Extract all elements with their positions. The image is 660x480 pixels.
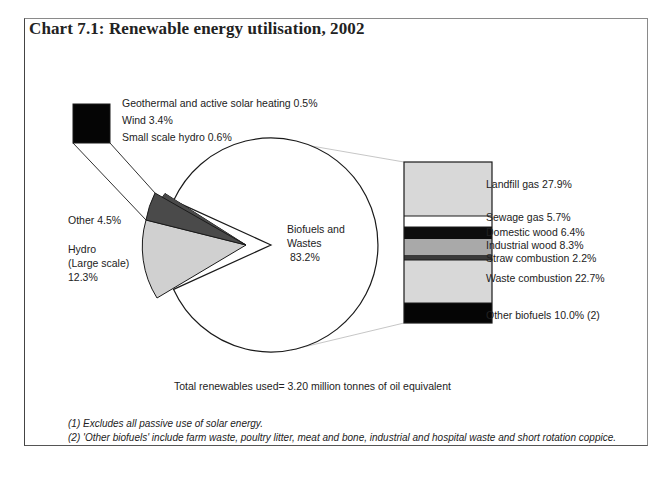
bar-label-domestic-wood: Domestic wood 6.4% [486,226,585,239]
label-biofuels-2: Wastes [287,237,322,250]
bar-seg-domestic-wood [404,227,492,239]
label-biofuels-3: 83.2% [290,251,320,264]
bar-label-straw: Straw combustion 2.2% [486,252,596,265]
connector-other-right [110,143,155,193]
label-biofuels-1: Biofuels and [287,223,345,236]
bar-label-waste-combustion: Waste combustion 22.7% [486,272,605,285]
label-hydro-1: Hydro [68,243,96,256]
label-hydro-2: (Large scale) [68,257,129,270]
label-wind: Wind 3.4% [122,114,173,127]
bar-seg-sewage [404,216,492,227]
biofuels-stacked-bar [404,162,492,323]
footnote-1: (1) Excludes all passive use of solar en… [68,418,263,429]
bar-label-industrial-wood: Industrial wood 8.3% [486,239,583,252]
label-hydro-3: 12.3% [68,271,98,284]
total-renewables: Total renewables used= 3.20 million tonn… [174,380,451,392]
bar-label-sewage: Sewage gas 5.7% [486,211,571,224]
bar-seg-industrial-wood [404,239,492,255]
label-small-hydro: Small scale hydro 0.6% [122,131,232,144]
bar-seg-landfill [404,162,492,216]
bar-seg-other-biofuels [404,303,492,323]
bar-seg-straw [404,255,492,260]
bar-label-other-biofuels: Other biofuels 10.0% (2) [486,309,600,322]
label-geothermal: Geothermal and active solar heating 0.5% [122,97,318,110]
bar-seg-waste-combustion [404,260,492,303]
other-breakdown-box [73,104,110,143]
bar-label-landfill: Landfill gas 27.9% [486,178,572,191]
footnote-2: (2) 'Other biofuels' include farm waste,… [68,432,616,443]
label-other: Other 4.5% [68,214,121,227]
connector-other-left [73,143,146,220]
